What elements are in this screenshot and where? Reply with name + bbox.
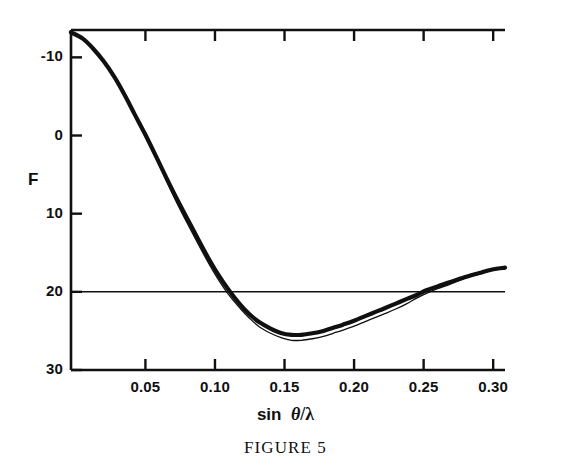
data-curves xyxy=(71,32,505,340)
curve-thick-curve xyxy=(71,32,505,335)
x-tick-label: 0.05 xyxy=(115,378,175,395)
x-axis-title: sin θ/λ xyxy=(0,404,571,425)
x-tick-label: 0.30 xyxy=(463,378,523,395)
plot-canvas xyxy=(0,0,571,472)
lambda-symbol: λ xyxy=(305,404,314,424)
x-tick-label: 0.10 xyxy=(185,378,245,395)
x-tick-label: 0.20 xyxy=(324,378,384,395)
y-axis-title: F xyxy=(28,170,38,190)
x-tick-label: 0.15 xyxy=(255,378,315,395)
y-tick-label: -10 xyxy=(15,47,63,64)
y-tick-label: 20 xyxy=(15,282,63,299)
figure-caption: FIGURE 5 xyxy=(0,438,571,458)
y-tick-label: 10 xyxy=(15,204,63,221)
x-axis-title-sin: sin xyxy=(257,405,282,424)
y-tick-label: 30 xyxy=(15,360,63,377)
plot-frame xyxy=(71,30,505,370)
y-tick-label: 0 xyxy=(15,126,63,143)
theta-symbol: θ xyxy=(291,404,300,424)
x-tick-label: 0.25 xyxy=(394,378,454,395)
figure-container: -100102030 0.050.100.150.200.250.30 F si… xyxy=(0,0,571,472)
axis-ticks xyxy=(71,30,493,370)
